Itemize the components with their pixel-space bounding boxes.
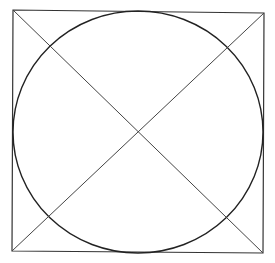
diagonal-bottom-left-to-top-right	[12, 13, 264, 251]
geometry-figure	[0, 0, 275, 263]
diagram-canvas	[0, 0, 275, 263]
